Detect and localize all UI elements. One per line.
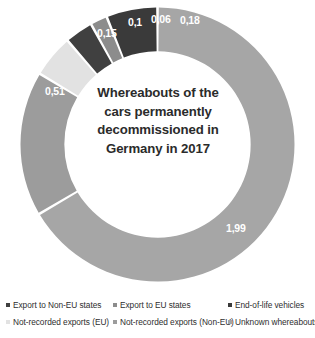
legend-item[interactable]: Not-recorded exports (EU) <box>6 313 109 331</box>
slice-value-label: 1,99 <box>226 222 246 234</box>
donut-plot-area: 1,990,510,150,10,060,18 Whereabouts of t… <box>0 0 315 290</box>
legend-item-label: Unknown whereabouts <box>235 317 315 327</box>
legend-item[interactable]: Unknown whereabouts <box>228 313 315 331</box>
legend-swatch-icon <box>228 320 232 324</box>
donut-chart-figure: 1,990,510,150,10,060,18 Whereabouts of t… <box>0 0 315 338</box>
legend-row: Not-recorded exports (EU)Not-recorded ex… <box>0 313 315 331</box>
legend-row: Export to Non-EU statesExport to EU stat… <box>0 296 315 314</box>
slice-value-label: 0,06 <box>151 13 171 25</box>
chart-center-title: Whereabouts of the cars permanently deco… <box>82 84 234 158</box>
center-title-line-1: Whereabouts of the <box>82 84 234 103</box>
legend-item-label: Export to EU states <box>120 300 191 310</box>
legend-swatch-icon <box>228 303 232 307</box>
legend-swatch-icon <box>6 320 10 324</box>
slice-value-label: 0,1 <box>128 16 142 28</box>
legend-item[interactable]: Not-recorded exports (Non-EU) <box>113 313 234 331</box>
legend-item-label: End-of-life vehicles <box>235 300 304 310</box>
slice-value-label: 0,15 <box>97 27 117 39</box>
legend-swatch-icon <box>113 303 117 307</box>
center-title-line-3: decommissioned in <box>82 121 234 140</box>
legend-item[interactable]: End-of-life vehicles <box>228 296 304 314</box>
legend-item[interactable]: Export to EU states <box>113 296 191 314</box>
legend-item-label: Not-recorded exports (Non-EU) <box>120 317 234 327</box>
chart-legend: Export to Non-EU statesExport to EU stat… <box>0 296 315 338</box>
legend-item-label: Export to Non-EU states <box>13 300 101 310</box>
center-title-line-2: cars permanently <box>82 103 234 122</box>
legend-item[interactable]: Export to Non-EU states <box>6 296 101 314</box>
center-title-line-4: Germany in 2017 <box>82 140 234 159</box>
slice-value-label: 0,18 <box>180 14 200 26</box>
legend-swatch-icon <box>113 320 117 324</box>
slice-value-label: 0,51 <box>45 85 65 97</box>
legend-swatch-icon <box>6 303 10 307</box>
legend-item-label: Not-recorded exports (EU) <box>13 317 109 327</box>
